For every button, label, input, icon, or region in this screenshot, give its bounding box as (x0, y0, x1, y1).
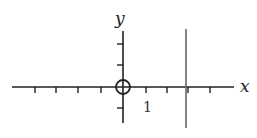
coordinate-plane (0, 0, 257, 138)
y-ticks (117, 44, 123, 108)
tick-label-1: 1 (143, 100, 152, 114)
graph-diagram: y x 1 (0, 0, 257, 138)
x-axis-label: x (240, 78, 250, 95)
y-axis-label: y (115, 10, 125, 27)
